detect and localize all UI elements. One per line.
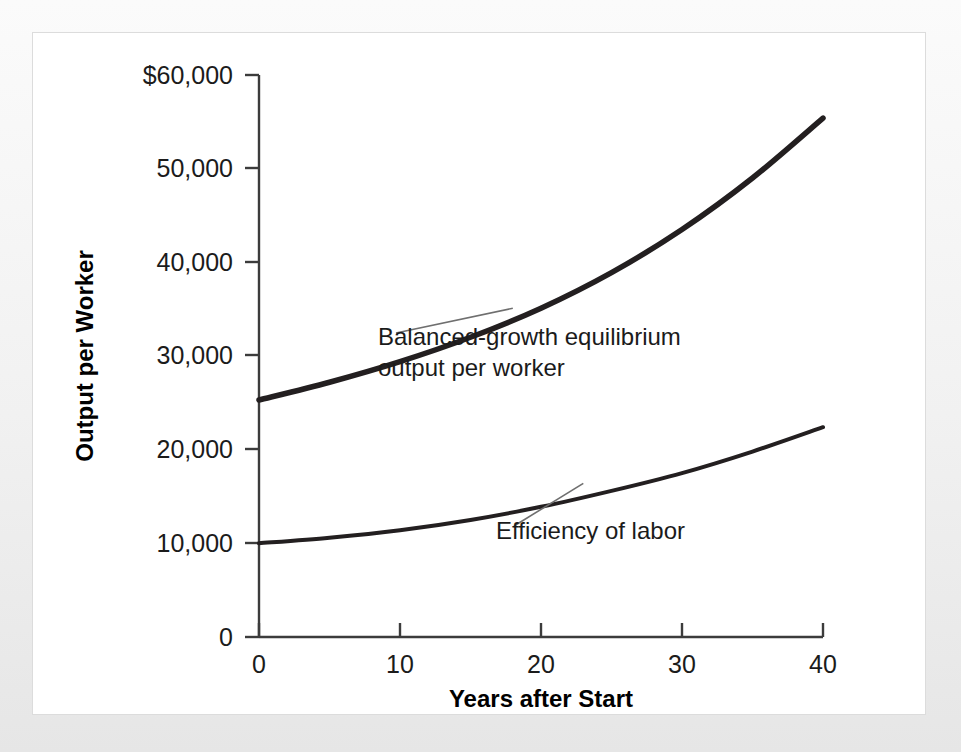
annotation-balanced-growth-group: Balanced-growth equilibrium output per w… (378, 308, 681, 381)
efficiency-of-labor-annotation-line1: Efficiency of labor (496, 517, 685, 544)
y-axis-title: Output per Worker (71, 250, 98, 462)
balanced-growth-annotation-line1: Balanced-growth equilibrium (378, 323, 681, 350)
y-axis-group: $60,000 50,000 40,000 30,000 20,000 10,0… (71, 61, 259, 651)
x-tick-label-40: 40 (809, 650, 837, 678)
x-axis-group: 0 10 20 30 40 Years after Start (252, 623, 837, 712)
x-axis-title: Years after Start (449, 685, 633, 712)
chart-card: $60,000 50,000 40,000 30,000 20,000 10,0… (33, 33, 925, 714)
y-tick-label-50000: 50,000 (157, 154, 233, 182)
y-tick-label-30000: 30,000 (157, 341, 233, 369)
chart-canvas: $60,000 50,000 40,000 30,000 20,000 10,0… (33, 33, 925, 714)
x-tick-label-10: 10 (386, 650, 414, 678)
x-tick-label-20: 20 (527, 650, 555, 678)
y-tick-label-40000: 40,000 (157, 248, 233, 276)
y-tick-label-60000: $60,000 (143, 61, 233, 89)
x-tick-label-0: 0 (252, 650, 266, 678)
y-tick-label-20000: 20,000 (157, 435, 233, 463)
figure-root: $60,000 50,000 40,000 30,000 20,000 10,0… (0, 0, 961, 752)
annotation-efficiency-group: Efficiency of labor (496, 483, 685, 544)
balanced-growth-annotation-line2: output per worker (378, 354, 565, 381)
x-tick-label-30: 30 (668, 650, 696, 678)
y-tick-label-0: 0 (219, 623, 233, 651)
y-tick-label-10000: 10,000 (157, 529, 233, 557)
